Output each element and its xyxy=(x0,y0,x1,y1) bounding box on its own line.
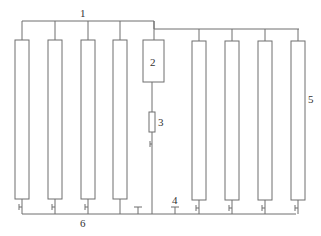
column-tube xyxy=(113,40,127,199)
column-left-3 xyxy=(81,21,95,214)
drain-valve-left xyxy=(134,207,142,214)
label-outlet-valve: 4 xyxy=(172,194,178,206)
column-left-1 xyxy=(15,21,29,214)
label-central-unit: 2 xyxy=(150,56,156,68)
column-right-1 xyxy=(192,29,206,214)
label-column: 5 xyxy=(308,93,314,105)
right-columns xyxy=(192,29,305,214)
column-left-2 xyxy=(48,21,62,214)
column-tube xyxy=(48,40,62,199)
column-right-4 xyxy=(291,29,305,214)
inline-component-box xyxy=(149,112,155,132)
outlet-valve xyxy=(171,207,179,214)
label-inline-component: 3 xyxy=(158,116,164,128)
label-bottom-manifold: 6 xyxy=(80,217,86,229)
column-right-3 xyxy=(258,29,272,214)
column-tube xyxy=(258,41,272,200)
column-right-2 xyxy=(225,29,239,214)
top-manifold xyxy=(22,21,299,29)
schematic-diagram: 2 3 4 1 6 5 xyxy=(0,0,321,236)
label-top-manifold: 1 xyxy=(80,7,86,19)
column-left-4 xyxy=(113,21,127,214)
column-tube xyxy=(192,41,206,200)
column-tube xyxy=(15,40,29,199)
column-tube xyxy=(225,41,239,200)
column-tube xyxy=(291,41,305,200)
left-columns xyxy=(15,21,127,214)
column-tube xyxy=(81,40,95,199)
